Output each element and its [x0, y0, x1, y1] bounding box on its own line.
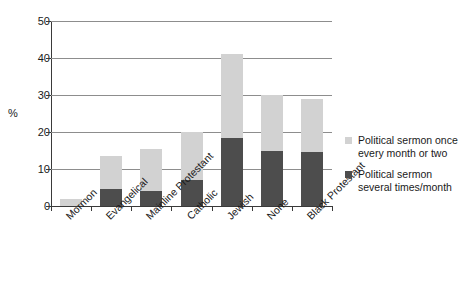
chart-legend: Political sermon once every month or two…: [345, 134, 467, 202]
x-axis-tick-mark: [212, 206, 213, 211]
bar-stack[interactable]: [301, 21, 323, 206]
legend-label: Political sermon several times/month: [358, 168, 467, 193]
y-axis-tick-labels: 01020304050: [26, 0, 50, 302]
y-axis-title: %: [8, 107, 18, 119]
bar-stack[interactable]: [221, 21, 243, 206]
y-axis-tick-mark: [46, 132, 51, 133]
bar-segment-once-every-month-or-two[interactable]: [261, 95, 283, 151]
bar-stack[interactable]: [60, 21, 82, 206]
y-axis-tick-mark: [46, 206, 51, 207]
bar-segment-several-times-month[interactable]: [221, 138, 243, 206]
x-axis-tick-mark: [171, 206, 172, 211]
y-axis-tick-mark: [46, 21, 51, 22]
bar-segment-once-every-month-or-two[interactable]: [301, 99, 323, 153]
x-axis-tick-mark: [252, 206, 253, 211]
x-axis-tick-mark: [51, 206, 52, 211]
bar-stack[interactable]: [261, 21, 283, 206]
bar-segment-once-every-month-or-two[interactable]: [221, 54, 243, 137]
legend-label: Political sermon once every month or two: [358, 134, 467, 159]
legend-swatch-light: [345, 137, 352, 144]
legend-swatch-dark: [345, 171, 352, 178]
y-axis-tick-mark: [46, 169, 51, 170]
legend-entry[interactable]: Political sermon once every month or two: [345, 134, 467, 159]
y-axis-tick-mark: [46, 95, 51, 96]
x-axis-tick-mark: [91, 206, 92, 211]
legend-entry[interactable]: Political sermon several times/month: [345, 168, 467, 193]
bar-stack[interactable]: [100, 21, 122, 206]
x-axis-tick-mark: [131, 206, 132, 211]
x-axis-tick-mark: [332, 206, 333, 211]
x-axis-tick-mark: [292, 206, 293, 211]
bar-segment-once-every-month-or-two[interactable]: [100, 156, 122, 189]
stacked-bar-chart: % 01020304050 MormonEvangelicalMainline …: [0, 0, 467, 302]
y-axis-tick-mark: [46, 58, 51, 59]
